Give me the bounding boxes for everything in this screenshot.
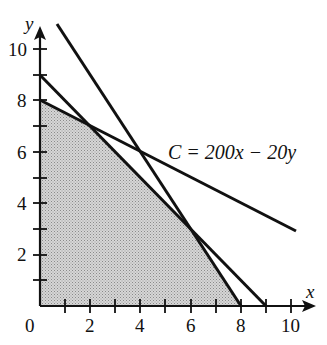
y-tick-label-6: 6 — [17, 142, 27, 163]
x-tick-label-6: 6 — [186, 315, 196, 336]
y-tick-label-4: 4 — [17, 193, 27, 214]
y-axis-label: y — [23, 13, 34, 34]
x-tick-label-2: 2 — [85, 315, 95, 336]
x-tick-label-4: 4 — [135, 315, 145, 336]
y-tick-label-8: 8 — [17, 90, 27, 111]
feasible-region — [40, 100, 241, 306]
linear-programming-graph: 0 2 4 6 8 10 2 4 6 8 10 x y C = 200x − 2… — [0, 0, 327, 345]
y-tick-label-2: 2 — [17, 244, 27, 265]
x-tick-label-10: 10 — [281, 315, 300, 336]
x-axis-label: x — [305, 281, 315, 302]
x-tick-label-8: 8 — [236, 315, 246, 336]
y-tick-label-10: 10 — [8, 39, 27, 60]
origin-label: 0 — [25, 315, 35, 336]
objective-function-label: C = 200x − 20y — [168, 141, 296, 164]
